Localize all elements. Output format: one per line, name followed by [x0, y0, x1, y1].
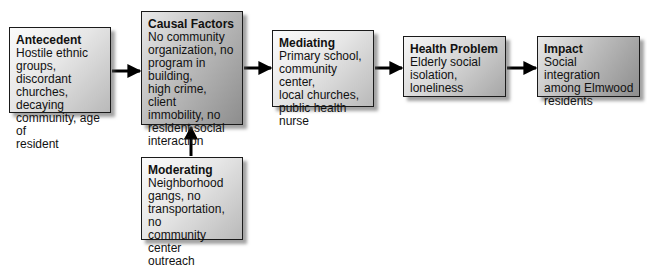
impact-box: Impact Social integration among Elmwood … [537, 36, 640, 97]
moderating-text: Neighborhood gangs, no transportation, n… [148, 177, 237, 268]
impact-text: Social integration among Elmwood residen… [544, 56, 634, 108]
moderating-box: Moderating Neighborhood gangs, no transp… [141, 157, 243, 240]
mediating-text: Primary school, community center, local … [279, 50, 368, 128]
causal-factors-text: No community organization, no program in… [148, 31, 237, 148]
antecedent-text: Hostile ethnic groups, discordant church… [16, 47, 105, 151]
health-problem-box: Health Problem Elderly social isolation,… [403, 36, 506, 97]
mediating-box: Mediating Primary school, community cent… [272, 30, 374, 107]
antecedent-box: Antecedent Hostile ethnic groups, discor… [9, 27, 111, 113]
health-problem-text: Elderly social isolation, loneliness [410, 56, 500, 95]
causal-factors-box: Causal Factors No community organization… [141, 11, 243, 125]
